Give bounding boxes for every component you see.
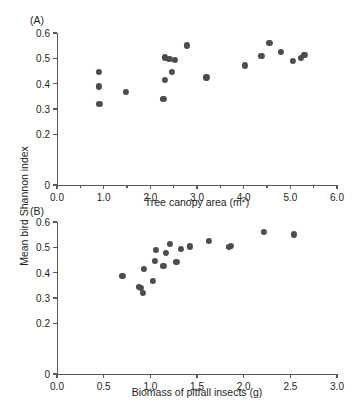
panel-a-x-minor-tick — [80, 185, 81, 188]
panel-a-plot-area: 00.20.30.40.50.60.01.02.03.04.05.06.0 — [57, 33, 337, 185]
panel-b-x-tick — [103, 374, 104, 378]
panel-a-data-point — [96, 101, 102, 107]
panel-b-x-tick — [196, 374, 197, 378]
panel-a-data-point — [162, 77, 168, 83]
panel-b-x-axis-title: Biomass of pitfall insects (g) — [132, 386, 263, 398]
panel-b-data-point — [173, 258, 179, 264]
panel-a-y-tick — [53, 58, 57, 59]
panel-a-data-point — [258, 53, 264, 59]
panel-b-x-tick — [290, 374, 291, 378]
panel-b-data-point — [153, 247, 159, 253]
panel-b-data-point — [160, 263, 166, 269]
panel-a-data-point — [172, 57, 178, 63]
panel-a-y-ticklabel: 0.5 — [17, 53, 50, 64]
panel-a-data-point — [123, 89, 129, 95]
panel-a-x-minor-tick — [266, 185, 267, 188]
panel-b-data-point — [228, 243, 234, 249]
panel-a-data-point — [184, 42, 190, 48]
panel-a-data-point — [266, 40, 272, 46]
panel-b-y-ticklabel: 0 — [17, 369, 50, 380]
scatter-figure: Mean bird Shannon index (A) 00.20.30.40.… — [0, 0, 355, 412]
panel-a-label: (A) — [30, 14, 44, 26]
panel-a-x-minor-tick — [220, 185, 221, 188]
panel-a-data-point — [290, 58, 296, 64]
panel-b-x-tick — [243, 374, 244, 378]
panel-b-y-tick — [53, 221, 57, 222]
panel-a-y-tick — [53, 134, 57, 135]
panel-b-data-point — [152, 258, 158, 264]
panel-a-y-ticklabel: 0.2 — [17, 129, 50, 140]
panel-b-data-point — [163, 250, 169, 256]
panel-a-y-tick — [53, 108, 57, 109]
panel-a-x-minor-tick — [173, 185, 174, 188]
panel-a-x-tick — [103, 185, 104, 189]
panel-b-x-ticklabel: 2.5 — [283, 381, 297, 392]
panel-b-data-point — [167, 240, 173, 246]
panel-b-y-tick — [53, 272, 57, 273]
panel-b-plot-area: 00.20.30.40.50.60.00.51.01.52.02.53.0 — [57, 222, 337, 374]
panel-b-y-ticklabel: 0.4 — [17, 267, 50, 278]
panel-a-x-tick — [243, 185, 244, 189]
panel-b-x-tick — [150, 374, 151, 378]
panel-a-y-ticklabel: 0.6 — [17, 28, 50, 39]
panel-a-y-tick — [53, 32, 57, 33]
panel-a-data-point — [203, 74, 209, 80]
panel-b-data-point — [206, 238, 212, 244]
panel-a-x-tick — [150, 185, 151, 189]
panel-b-y-ticklabel: 0.5 — [17, 242, 50, 253]
panel-a-x-tick — [196, 185, 197, 189]
panel-a-x-tick — [56, 185, 57, 189]
panel-b-y-ticklabel: 0.6 — [17, 217, 50, 228]
panel-a-x-tick — [290, 185, 291, 189]
panel-b-x-tick — [56, 374, 57, 378]
panel-b-y-tick — [53, 297, 57, 298]
panel-b-x-tick — [336, 374, 337, 378]
panel-a-y-ticklabel: 0.4 — [17, 78, 50, 89]
panel-a-data-point — [302, 51, 308, 57]
panel-b-y-tick — [53, 323, 57, 324]
panel-a-y-ticklabel: 0 — [17, 180, 50, 191]
panel-b-data-point — [119, 273, 125, 279]
panel-b-data-point — [186, 243, 192, 249]
panel-a: (A) 00.20.30.40.50.60.01.02.03.04.05.06.… — [0, 0, 355, 206]
panel-a-data-point — [242, 62, 248, 68]
panel-b-y-tick — [53, 247, 57, 248]
panel-b-data-point — [261, 229, 267, 235]
panel-b-y-ticklabel: 0.2 — [17, 318, 50, 329]
panel-a-data-point — [96, 83, 102, 89]
panel-a-x-minor-tick — [126, 185, 127, 188]
panel-b-y-axis-line — [57, 222, 58, 374]
panel-b-data-point — [150, 278, 156, 284]
panel-b-data-point — [291, 231, 297, 237]
panel-a-data-point — [169, 69, 175, 75]
panel-a-data-point — [96, 68, 102, 74]
panel-a-y-ticklabel: 0.3 — [17, 104, 50, 115]
panel-b-data-point — [141, 266, 147, 272]
panel-b-y-ticklabel: 0.3 — [17, 293, 50, 304]
panel-a-data-point — [160, 96, 166, 102]
panel-a-x-tick — [336, 185, 337, 189]
panel-b-x-ticklabel: 0.5 — [97, 381, 111, 392]
panel-b: (B) 00.20.30.40.50.60.00.51.01.52.02.53.… — [0, 200, 355, 412]
panel-b-data-point — [140, 290, 146, 296]
panel-a-data-point — [278, 49, 284, 55]
panel-b-label: (B) — [30, 205, 44, 217]
panel-b-data-point — [178, 246, 184, 252]
panel-a-y-tick — [53, 83, 57, 84]
panel-b-x-ticklabel: 3.0 — [330, 381, 344, 392]
panel-b-x-ticklabel: 0.0 — [50, 381, 64, 392]
panel-a-y-axis-line — [57, 33, 58, 185]
panel-a-x-minor-tick — [313, 185, 314, 188]
